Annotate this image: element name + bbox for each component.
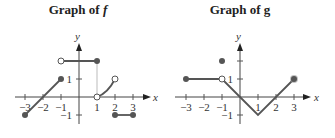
g-tick-p3: 3 (291, 101, 297, 113)
g-point-closed (183, 76, 189, 82)
f-segment-3 (97, 79, 115, 97)
f-tick-p3: 3 (130, 101, 136, 113)
g-ytick-p1: 1 (228, 73, 234, 85)
g-x-axis-arrow-icon (303, 94, 311, 100)
f-point-closed (112, 112, 118, 118)
f-point-closed (130, 112, 136, 118)
g-point-closed (291, 76, 297, 82)
f-point-open (112, 76, 118, 82)
graphs-canvas: x y −3 −2 −1 1 2 3 1 −1 (0, 0, 335, 138)
f-x-axis-arrow-icon (143, 94, 151, 100)
f-tick-n2: −2 (37, 101, 49, 113)
f-y-label: y (74, 30, 80, 42)
f-ytick-p1: 1 (67, 73, 73, 85)
graph-g: x y −3 −2 −1 1 2 3 1 −1 (175, 30, 319, 124)
f-tick-p2: 2 (112, 101, 118, 113)
g-tick-p2: 2 (273, 101, 279, 113)
g-ytick-n1: −1 (221, 109, 233, 121)
g-point-open (219, 76, 225, 82)
f-x-label: x (152, 91, 158, 103)
f-point-closed (58, 76, 64, 82)
f-point-open (94, 94, 100, 100)
f-point-open (58, 58, 64, 64)
g-tick-n3: −3 (180, 101, 192, 113)
g-tick-p1: 1 (255, 101, 261, 113)
f-point-closed (22, 112, 28, 118)
graph-f: x y −3 −2 −1 1 2 3 1 −1 (15, 30, 158, 124)
g-y-axis-arrow-icon (237, 43, 243, 51)
f-ytick-n1: −1 (60, 109, 72, 121)
f-tick-p1: 1 (94, 101, 100, 113)
g-point-isolated (219, 58, 225, 64)
g-tick-n2: −2 (198, 101, 210, 113)
f-y-axis-arrow-icon (76, 43, 82, 51)
g-y-label: y (235, 30, 241, 42)
f-point-closed (94, 58, 100, 64)
g-x-label: x (313, 91, 319, 103)
